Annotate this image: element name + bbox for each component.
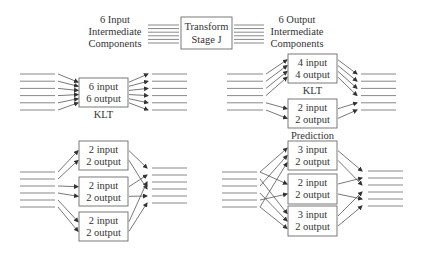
panel-three-2x2: 2 input2 output2 input2 output2 input2 o… [20,141,187,241]
input-connector-arrow [58,74,78,82]
block-label: 2 input [89,180,119,191]
block-label: 2 output [295,221,330,232]
block-label: 4 input [298,57,328,68]
output-connector-arrow [129,99,148,103]
transform-block: 4 input4 outputKLT [266,54,357,96]
output-connector-arrow [338,66,357,82]
transform-block: 2 input2 outputPrediction [266,99,357,141]
output-connector-arrow [129,103,148,110]
header-input-line: Components [88,38,141,49]
block-caption: KLT [303,85,323,96]
input-connector-arrow [266,60,287,74]
input-connector-arrow [58,103,78,110]
header-output-line: 6 Output [278,14,315,25]
output-connector-arrow [338,151,362,171]
block-label: 2 output [295,189,330,200]
transform-block: 2 input2 output [58,175,147,206]
block-label: 6 input [89,81,119,92]
block-label: 2 input [298,102,328,113]
block-label: 6 output [86,93,121,104]
output-connector-arrow [129,151,147,168]
input-connector-arrow [260,163,287,207]
output-connector-arrow [338,110,357,118]
block-caption: KLT [94,109,114,120]
output-connector-arrow [338,60,357,74]
output-connector-arrow [338,192,362,216]
block-caption: Prediction [291,130,335,141]
output-connector-arrow [338,194,362,199]
block-label: 2 output [86,227,121,238]
transform-block: 2 input2 output [260,172,362,204]
stage-label-line: Transform [185,21,229,32]
block-label: 2 input [89,144,119,155]
block-label: 2 input [298,177,328,188]
input-connector-arrow [58,193,78,196]
input-connector-arrow [58,151,78,172]
output-connector-arrow [338,103,357,109]
input-connector-arrow [266,103,287,109]
header-input-line: Intermediate [88,26,141,37]
transform-block: 6 input6 outputKLT [58,74,148,120]
block-label: 3 input [298,144,328,155]
input-connector-arrow [260,207,287,229]
header-input-label: 6 Input Intermediate Components [88,14,141,49]
input-connector-arrow [266,66,287,82]
block-label: 2 input [89,215,119,226]
output-connector-arrow [129,95,148,96]
output-connector-arrow [129,88,148,90]
block-label: 3 input [298,209,328,220]
transform-diagram-svg: 6 Input Intermediate Components 6 Output… [0,0,421,253]
input-connector-arrow [260,172,287,184]
panel-klt-6x6: 6 input6 outputKLT [20,74,187,120]
header-output-line: Components [270,38,323,49]
output-connector-arrow [129,203,147,231]
panels: 6 input6 outputKLT4 input4 outputKLT2 in… [20,54,403,241]
input-connector-arrow [58,99,78,103]
block-label: 2 output [295,156,330,167]
block-label: 2 output [86,192,121,203]
block-label: 2 output [295,114,330,125]
block-label: 2 output [86,156,121,167]
header-input-line: 6 Input [100,14,130,25]
panel-klt-4x4-plus-prediction: 4 input4 outputKLT2 input2 outputPredict… [227,54,396,141]
panel-3x2-2x2-3x2: 3 input2 output2 input2 output3 input2 o… [222,141,403,236]
output-connector-arrow [129,182,147,222]
input-connector-arrow [58,81,78,86]
output-connector-arrow [129,74,148,82]
input-connector-arrow [266,110,287,118]
header-output-line: Intermediate [270,26,323,37]
block-label: 4 output [295,69,330,80]
output-connector-arrow [338,206,362,226]
input-connector-arrow [58,160,78,179]
header-output-label: 6 Output Intermediate Components [270,14,323,49]
input-connector-arrow [58,88,78,90]
input-connector-arrow [58,186,78,187]
output-connector-arrow [129,81,148,86]
input-connector-arrow [58,95,78,96]
stage-label-line: Stage J [191,34,221,45]
diagram: 6 Input Intermediate Components 6 Output… [0,0,421,253]
